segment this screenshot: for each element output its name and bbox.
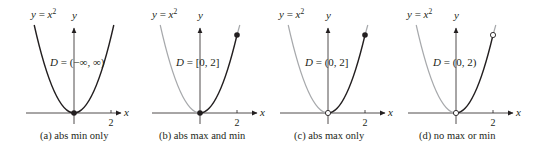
parabola-domain-segment [200, 35, 237, 113]
filled-point-x2 [362, 32, 368, 38]
function-label: y = x2 [30, 7, 57, 20]
y-axis-label: y [325, 9, 331, 21]
filled-point-origin [71, 110, 77, 116]
y-axis-label: y [197, 9, 203, 21]
parabola-domain-segment [456, 35, 493, 113]
domain-label: D = (−∞, ∞) [49, 56, 105, 69]
filled-point-origin [197, 110, 203, 116]
x-axis-label: x [515, 106, 521, 118]
domain-label: D = (0, 2) [432, 56, 477, 69]
open-point-x2 [490, 32, 495, 37]
caption: (a) abs min only [40, 130, 109, 142]
y-axis-label: y [71, 9, 77, 21]
tick-label-2: 2 [235, 117, 240, 128]
x-axis-label: x [123, 106, 129, 118]
tick-label-2: 2 [363, 117, 368, 128]
x-axis-label: x [259, 106, 265, 118]
domain-label: D = [0, 2] [175, 56, 220, 68]
parabola-domain-segment [328, 35, 365, 113]
tick-label-2: 2 [109, 117, 114, 128]
y-axis-label: y [453, 9, 459, 21]
parabola-excluded-left [160, 25, 200, 113]
function-label: y = x2 [406, 7, 433, 20]
panel-d: y = x2 y x 2 D = (0, 2) (d) no max or mi… [406, 7, 521, 142]
filled-point-x2 [234, 32, 240, 38]
x-axis-label: x [387, 106, 393, 118]
open-point-origin [453, 110, 458, 115]
parabola-excluded-left [416, 25, 456, 113]
caption: (c) abs max only [294, 130, 365, 142]
figure-canvas: y = x2 y x 2 D = (−∞, ∞) (a) abs min onl… [0, 0, 540, 147]
function-label: y = x2 [278, 7, 305, 20]
panel-b: y = x2 y x 2 D = [0, 2] (b) abs max and … [151, 7, 265, 142]
caption: (b) abs max and min [159, 130, 246, 142]
function-label: y = x2 [151, 7, 178, 20]
open-point-origin [325, 110, 330, 115]
domain-label: D = (0, 2] [304, 56, 349, 69]
parabola-excluded-left [288, 25, 328, 113]
panel-c: y = x2 y x 2 D = (0, 2] (c) abs max only [278, 7, 393, 142]
panel-a: y = x2 y x 2 D = (−∞, ∞) (a) abs min onl… [26, 7, 129, 142]
caption: (d) no max or min [419, 130, 496, 142]
tick-label-2: 2 [491, 117, 496, 128]
